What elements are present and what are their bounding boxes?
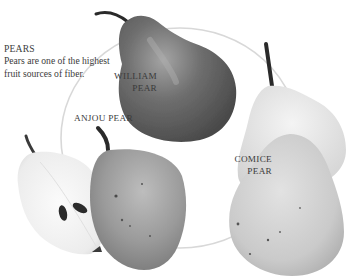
label-comice-line2: PEAR [216,165,272,177]
label-comice-pear: COMICE PEAR [216,153,272,177]
label-william-line2: PEAR [95,82,157,94]
cut-pear [18,136,102,254]
pear-infographic: PEARS Pears are one of the highest fruit… [0,0,357,280]
anjou-pear [90,128,186,270]
label-anjou-line1: ANJOU PEAR [74,112,154,124]
caption-title: PEARS [4,43,114,55]
label-comice-line1: COMICE [216,153,272,165]
label-william-line1: WILLIAM [95,70,157,82]
pear-illustration [0,0,357,280]
label-anjou-pear: ANJOU PEAR [74,112,154,124]
caption-body: Pears are one of the highest fruit sourc… [4,55,110,78]
label-william-pear: WILLIAM PEAR [95,70,157,94]
